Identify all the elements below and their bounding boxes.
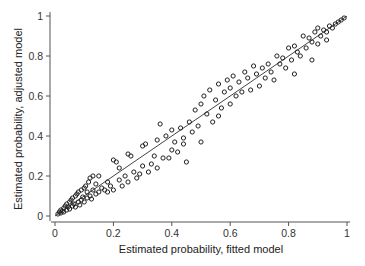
data-point (249, 88, 253, 92)
data-point (231, 74, 235, 78)
x-tick-label: 0.8 (281, 227, 296, 239)
data-point (208, 88, 212, 92)
data-point (243, 70, 247, 74)
x-tick-label: 0.4 (164, 227, 179, 239)
data-point (167, 156, 171, 160)
data-point (237, 80, 241, 84)
data-point (152, 154, 156, 158)
y-tick-label: 0.6 (28, 90, 43, 102)
data-point (292, 72, 296, 76)
data-point (117, 178, 121, 182)
data-point (158, 122, 162, 126)
y-tick-label: 0 (37, 210, 43, 222)
data-point (155, 166, 159, 170)
data-point (138, 172, 142, 176)
data-point (170, 148, 174, 152)
data-point (199, 140, 203, 144)
data-point (316, 42, 320, 46)
data-point (190, 130, 194, 134)
data-point (120, 184, 124, 188)
data-point (173, 140, 177, 144)
x-axis: 00.20.40.60.81 (51, 222, 350, 239)
data-point (149, 162, 153, 166)
data-point (132, 170, 136, 174)
scatter-chart: 00.20.40.60.81 00.20.40.60.81 Estimated … (0, 0, 365, 266)
data-point (211, 120, 215, 124)
data-point (228, 86, 232, 90)
data-point (94, 182, 98, 186)
y-axis-title: Estimated probability, adjusted model (12, 28, 24, 210)
data-point (310, 58, 314, 62)
y-tick-label: 0.8 (28, 50, 43, 62)
data-point (324, 38, 328, 42)
data-point (97, 174, 101, 178)
identity-reference-line (55, 16, 347, 216)
data-point (126, 180, 130, 184)
data-point (289, 58, 293, 62)
data-point (275, 54, 279, 58)
data-point (287, 46, 291, 50)
data-point (234, 94, 238, 98)
data-point (316, 26, 320, 30)
data-point (216, 82, 220, 86)
y-axis-ticks: 00.20.40.60.81 (28, 10, 50, 222)
data-point (307, 36, 311, 40)
data-point (164, 134, 168, 138)
data-point (284, 66, 288, 70)
data-point (214, 98, 218, 102)
data-point (292, 44, 296, 48)
data-point (269, 70, 273, 74)
data-point (199, 102, 203, 106)
data-point (304, 46, 308, 50)
data-point (257, 84, 261, 88)
data-point (135, 176, 139, 180)
data-point (184, 160, 188, 164)
data-point (254, 72, 258, 76)
x-tick-label: 0.2 (106, 227, 121, 239)
data-point (117, 166, 121, 170)
y-tick-label: 0.2 (28, 170, 43, 182)
data-point (266, 62, 270, 66)
data-point (219, 106, 223, 110)
x-tick-label: 0.6 (223, 227, 238, 239)
data-point (196, 124, 200, 128)
data-point (155, 138, 159, 142)
data-point (176, 150, 180, 154)
y-tick-label: 0.4 (28, 130, 43, 142)
data-point (225, 78, 229, 82)
x-axis-ticks: 00.20.40.60.81 (52, 222, 350, 239)
data-point (228, 102, 232, 106)
x-tick-label: 0 (52, 227, 58, 239)
y-axis: 00.20.40.60.81 (28, 10, 50, 222)
data-point (108, 184, 112, 188)
x-tick-label: 1 (344, 227, 350, 239)
data-point (202, 94, 206, 98)
data-point (181, 136, 185, 140)
data-point (111, 188, 115, 192)
data-point (298, 54, 302, 58)
data-point (313, 30, 317, 34)
data-point (161, 156, 165, 160)
data-point (146, 170, 150, 174)
data-point (263, 76, 267, 80)
data-point (123, 174, 127, 178)
data-point (216, 114, 220, 118)
data-point (141, 164, 145, 168)
data-point (246, 76, 250, 80)
x-axis-title: Estimated probability, fitted model (119, 243, 283, 255)
data-point (222, 90, 226, 94)
y-tick-label: 1 (37, 10, 43, 22)
data-point (240, 90, 244, 94)
data-point (260, 66, 264, 70)
data-point (170, 128, 174, 132)
data-point (301, 34, 305, 38)
data-point (251, 64, 255, 68)
data-point (272, 78, 276, 82)
data-point (181, 142, 185, 146)
data-point (193, 108, 197, 112)
